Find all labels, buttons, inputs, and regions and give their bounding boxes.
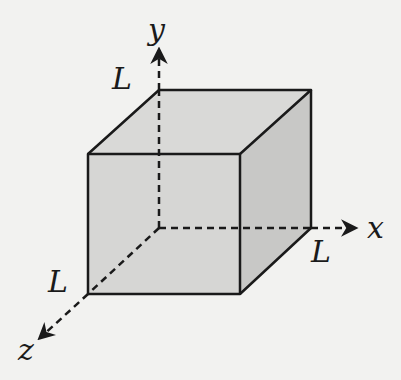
y-axis-label: y [146,12,166,47]
x-edge-length-label: L [310,234,331,269]
cube-diagram: y x z L L L [0,0,401,380]
x-axis-label: x [367,210,384,245]
z-edge-length-label: L [47,264,68,299]
z-axis-label: z [17,332,34,367]
y-edge-length-label: L [111,61,132,96]
z-axis [40,294,88,338]
